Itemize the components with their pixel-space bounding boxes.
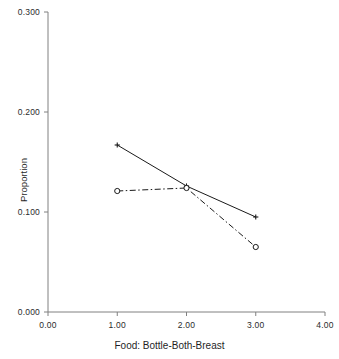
data-point-series-dashdot-2 (253, 244, 258, 249)
data-point-series-solid-2 (253, 214, 258, 219)
data-point-series-dashdot-0 (115, 188, 120, 193)
axes (44, 12, 325, 316)
series-line-series-solid (117, 145, 256, 217)
data-point-series-solid-0 (115, 142, 120, 147)
data-series (115, 142, 259, 249)
chart-figure: Proportion Food: Bottle-Both-Breast 0.00… (0, 0, 339, 359)
marker-open-circle (184, 185, 189, 190)
marker-open-circle (253, 244, 258, 249)
series-line-series-dashdot (117, 188, 256, 247)
marker-open-circle (115, 188, 120, 193)
data-point-series-dashdot-1 (184, 185, 189, 190)
plot-area (0, 0, 339, 359)
